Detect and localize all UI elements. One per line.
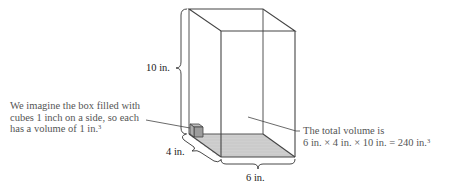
volume-note-line-1: The total volume is	[303, 125, 430, 137]
cube-note-leader	[146, 120, 190, 128]
width-label: 6 in.	[246, 172, 265, 184]
volume-note: The total volume is 6 in. × 4 in. × 10 i…	[303, 125, 430, 148]
box-back-edges	[189, 9, 263, 134]
cube-note-line-3: has a volume of 1 in.3	[10, 123, 140, 135]
volume-note-leader	[248, 117, 296, 131]
cube-note-line-2: cubes 1 inch on a side, so each	[10, 112, 140, 124]
box-diagram	[0, 0, 450, 190]
cube-note: We imagine the box filled with cubes 1 i…	[10, 100, 140, 135]
unit-cube	[190, 124, 203, 137]
depth-label: 4 in.	[166, 146, 185, 158]
cube-note-line-1: We imagine the box filled with	[10, 100, 140, 112]
width-brace	[221, 159, 295, 169]
volume-note-line-2: 6 in. × 4 in. × 10 in. = 240 in.3	[303, 137, 430, 149]
height-label: 10 in.	[146, 62, 170, 74]
height-brace	[176, 9, 187, 134]
